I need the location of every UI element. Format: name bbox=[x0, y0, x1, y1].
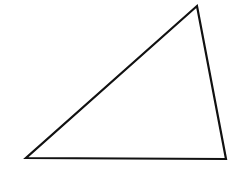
diagram-canvas bbox=[0, 0, 242, 169]
triangle-shape bbox=[26, 6, 226, 159]
triangle-diagram bbox=[0, 0, 242, 169]
